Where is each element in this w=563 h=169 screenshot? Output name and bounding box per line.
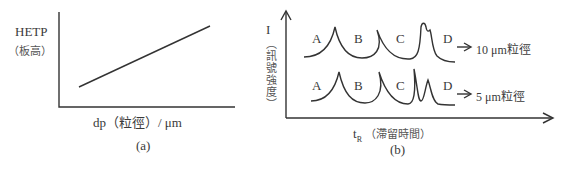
peak-label-a-10um: A (312, 31, 321, 47)
trace-5um (311, 69, 455, 105)
panel-a-graphics (59, 12, 235, 107)
panel-a-caption: (a) (136, 138, 150, 154)
peak-label-d-5um: D (443, 78, 452, 94)
panel-b-x-label-cjk: （滯留時間） (365, 128, 431, 141)
panel-a-hetp-line (79, 26, 210, 87)
trace-label-5um: 5 μm粒徑 (476, 87, 525, 105)
peak-label-d-10um: D (443, 31, 452, 47)
panel-a-x-label: dp（粒徑）/ μm (93, 112, 182, 131)
peak-label-c-5um: C (396, 78, 405, 94)
panel-a-y-label-sub: （板高） (8, 42, 52, 58)
trace-label-10um: 10 μm粒徑 (476, 40, 531, 58)
diagram-canvas (0, 0, 563, 169)
panel-b-caption: (b) (390, 142, 405, 158)
peak-label-c-10um: C (396, 31, 405, 47)
peak-label-b-10um: B (354, 31, 363, 47)
peak-label-a-5um: A (312, 78, 321, 94)
peak-label-b-5um: B (354, 78, 363, 94)
panel-a-y-label: HETP (15, 24, 48, 40)
trace-10um (304, 23, 455, 62)
panel-b-y-label: I (266, 22, 270, 38)
panel-b-x-label: tR （滯留時間） (353, 125, 431, 144)
panel-b-graphics (281, 11, 553, 123)
panel-b-y-label-sub: （訊號強度） (262, 38, 278, 110)
panel-b-x-label-subscript: R (357, 135, 362, 144)
